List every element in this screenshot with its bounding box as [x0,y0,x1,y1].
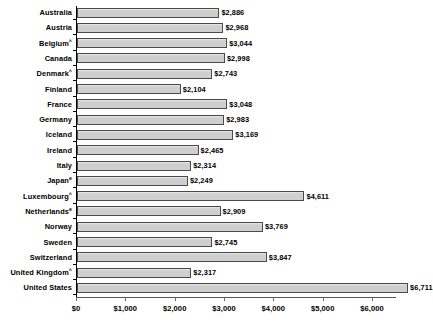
bar-row: United States$6,711 [0,281,420,295]
y-axis-tick [73,187,77,188]
category-label: Switzerland [0,252,72,263]
y-axis-tick [73,34,77,35]
bar-value-label: $2,249 [190,175,213,186]
bar-row: Finland$2,104 [0,83,420,97]
bar-value-label: $2,983 [226,114,249,125]
bar-value-label: $6,711 [410,282,433,293]
y-axis-tick [73,141,77,142]
x-axis-tick-mark [175,297,176,301]
bar-row: Luxembourg^$4,611 [0,190,420,204]
bar [77,252,267,262]
x-axis-tick-label: $4,000 [262,304,286,313]
x-axis-tick-label: $3,000 [212,304,236,313]
category-label: Finland [0,84,72,95]
bar [77,130,233,140]
y-axis-tick [73,294,77,295]
category-label: United Kingdom^ [0,267,72,278]
bar-value-label: $4,611 [306,191,329,202]
bar-row: United Kingdom^$2,317 [0,266,420,280]
x-axis-tick-label: $5,000 [311,304,335,313]
x-axis-tick-label: $1,000 [114,304,138,313]
category-label: Canada [0,53,72,64]
bar-row: Belgium^$3,044 [0,37,420,51]
bar-row: Iceland$3,169 [0,128,420,142]
bar-row: Italy$2,314 [0,159,420,173]
y-axis-tick [73,65,77,66]
bar [77,99,227,109]
footnote-marker: ^ [69,37,72,43]
bar [77,145,199,155]
category-label: Denmark^ [0,68,72,79]
bar-value-label: $3,169 [235,129,258,140]
bar-value-label: $2,743 [214,68,237,79]
bar-row: Australia$2,886 [0,6,420,20]
category-label: Norway [0,221,72,232]
x-axis-tick-mark [224,297,225,301]
footnote-marker: ^ [69,68,72,74]
y-axis-tick [73,126,77,127]
bar-row: Ireland$2,465 [0,144,420,158]
bar-value-label: $3,847 [269,252,292,263]
bar [77,84,181,94]
bar [77,206,221,216]
bar-row: Canada$2,998 [0,52,420,66]
bar [77,191,304,201]
category-label: Germany [0,114,72,125]
bar-row: Norway$3,769 [0,220,420,234]
y-axis-tick [73,249,77,250]
category-label: Austria [0,22,72,33]
y-axis-tick [73,172,77,173]
category-label: Netherlandse [0,206,72,217]
x-axis-tick-label: $0 [72,304,81,313]
x-axis-tick-mark [372,297,373,301]
footnote-marker: e [69,175,72,181]
bar-value-label: $2,968 [225,22,248,33]
y-axis-tick [73,96,77,97]
x-axis-tick-mark [125,297,126,301]
category-label: Ireland [0,145,72,156]
x-axis-tick-label: $6,000 [360,304,384,313]
footnote-marker: ^ [69,267,72,273]
bar-row: Sweden$2,745 [0,236,420,250]
category-label: France [0,99,72,110]
x-axis-ticks: $0$1,000$2,000$3,000$4,000$5,000$6,000 [0,297,420,323]
y-axis-tick [73,233,77,234]
bar-row: Japane$2,249 [0,174,420,188]
category-label: Italy [0,160,72,171]
category-label: Iceland [0,129,72,140]
bar-value-label: $2,909 [223,206,246,217]
x-axis-tick-mark [76,297,77,301]
bar-value-label: $2,314 [193,160,216,171]
category-label: Belgium^ [0,38,72,49]
bar-value-label: $3,048 [229,99,252,110]
bar-value-label: $2,745 [214,237,237,248]
bar [77,161,191,171]
bar [77,115,224,125]
y-axis-tick [73,203,77,204]
bar [77,283,408,293]
bar [77,23,223,33]
bar-value-label: $2,886 [221,7,244,18]
bar [77,268,191,278]
bar-value-label: $2,104 [183,84,206,95]
bar-row: Netherlandse$2,909 [0,205,420,219]
category-label: Luxembourg^ [0,191,72,202]
bar-value-label: $3,044 [229,38,252,49]
footnote-marker: ^ [69,190,72,196]
bar-row: Switzerland$3,847 [0,251,420,265]
bar [77,38,227,48]
y-axis-tick [73,264,77,265]
bar [77,53,225,63]
bar-row: Denmark^$2,743 [0,67,420,81]
x-axis-tick-mark [273,297,274,301]
y-axis-tick [73,218,77,219]
bar-rows: Australia$2,886Austria$2,968Belgium^$3,0… [0,0,420,291]
y-axis-tick [73,19,77,20]
bar-value-label: $2,998 [227,53,250,64]
bar [77,176,188,186]
bar-row: Germany$2,983 [0,113,420,127]
bar [77,8,219,18]
bar [77,237,212,247]
x-axis-tick-mark [323,297,324,301]
